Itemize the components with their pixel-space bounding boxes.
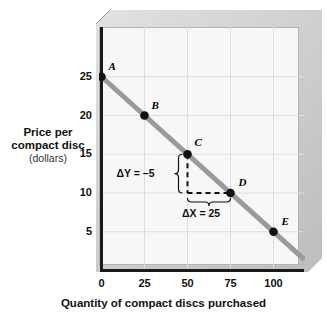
delta-x-brace	[188, 198, 231, 206]
delta-x-label: ΔX = 25	[182, 208, 220, 219]
y-axis-title-line-1: Price per	[4, 126, 92, 139]
y-axis-title: Price per compact disc (dollars)	[4, 126, 92, 165]
slope-triangle	[175, 154, 231, 206]
x-tick-25: 25	[125, 278, 165, 289]
x-axis-title: Quantity of compact discs purchased	[0, 297, 327, 309]
y-tick-5: 5	[86, 226, 92, 237]
y-axis-title-line-2: compact disc	[4, 139, 92, 152]
point-label-E: E	[282, 216, 289, 227]
x-tick-50: 50	[168, 278, 208, 289]
point-label-C: C	[195, 137, 202, 148]
grid-vertical	[145, 27, 306, 270]
data-point-B	[140, 111, 149, 120]
point-label-B: B	[152, 100, 159, 111]
data-point-C	[183, 150, 192, 159]
x-tick-75: 75	[211, 278, 251, 289]
y-tick-25: 25	[80, 71, 92, 82]
plot-area: ABCDE ΔY = –5 ΔX = 25	[99, 27, 305, 272]
y-axis-title-line-3: (dollars)	[4, 152, 92, 165]
data-point-D	[226, 189, 235, 198]
x-axis-tick-labels: 0255075100	[0, 278, 327, 294]
x-tick-0: 0	[82, 278, 122, 289]
point-label-A: A	[109, 61, 116, 72]
y-tick-20: 20	[80, 110, 92, 121]
y-tick-10: 10	[80, 187, 92, 198]
delta-y-label: ΔY = –5	[117, 168, 155, 179]
data-point-E	[269, 227, 278, 236]
delta-y-brace	[175, 154, 183, 193]
point-label-D: D	[239, 177, 247, 188]
x-tick-100: 100	[254, 278, 294, 289]
plot-svg	[99, 27, 305, 272]
